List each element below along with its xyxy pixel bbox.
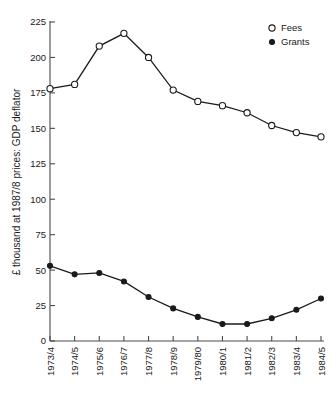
y-tick-label: 225 — [30, 16, 46, 27]
data-point-fees — [47, 86, 53, 92]
data-point-fees — [96, 43, 102, 49]
y-tick-label: 75 — [35, 229, 46, 240]
x-axis: 1973/41974/51975/61976/71977/81978/91979… — [45, 336, 327, 381]
legend-label-grants: Grants — [281, 36, 310, 47]
legend-marker-grants — [270, 40, 275, 45]
x-tick-label: 1980/1 — [217, 347, 228, 376]
data-point-grants — [72, 272, 77, 277]
data-point-grants — [195, 314, 200, 319]
y-tick-label: 175 — [30, 87, 46, 98]
y-tick-label: 25 — [35, 300, 46, 311]
x-tick-label: 1975/6 — [94, 347, 105, 376]
data-point-grants — [269, 316, 274, 321]
x-tick-label: 1982/3 — [266, 347, 277, 376]
y-tick-label: 200 — [30, 52, 46, 63]
data-point-grants — [97, 270, 102, 275]
x-tick-label: 1984/5 — [316, 347, 327, 376]
legend-marker-fees — [269, 25, 275, 31]
data-point-fees — [219, 103, 225, 109]
y-tick-label: 125 — [30, 158, 46, 169]
x-tick-label: 1973/4 — [45, 347, 56, 376]
data-point-grants — [245, 321, 250, 326]
x-tick-label: 1978/9 — [168, 347, 179, 376]
data-point-grants — [171, 306, 176, 311]
data-point-fees — [195, 98, 201, 104]
line-chart: 0255075100125150175200225 1973/41974/519… — [0, 0, 336, 395]
data-point-grants — [294, 307, 299, 312]
y-axis: 0255075100125150175200225 — [30, 16, 55, 346]
x-tick-label: 1976/7 — [118, 347, 129, 376]
data-point-fees — [244, 110, 250, 116]
data-point-fees — [170, 87, 176, 93]
y-tick-label: 100 — [30, 194, 46, 205]
chart-legend: FeesGrants — [269, 22, 310, 47]
chart-container: 0255075100125150175200225 1973/41974/519… — [0, 0, 336, 395]
data-point-fees — [269, 122, 275, 128]
data-point-grants — [121, 279, 126, 284]
data-point-grants — [319, 296, 324, 301]
data-point-fees — [72, 81, 78, 87]
x-tick-label: 1977/8 — [143, 347, 154, 376]
series-line-fees — [50, 33, 321, 137]
data-point-fees — [145, 54, 151, 60]
y-axis-title: £ thousand at 1987/8 prices: GDP deflato… — [11, 88, 22, 275]
y-tick-label: 0 — [41, 335, 46, 346]
data-point-fees — [293, 129, 299, 135]
y-tick-label: 150 — [30, 123, 46, 134]
y-tick-label: 50 — [35, 265, 46, 276]
data-point-fees — [121, 30, 127, 36]
data-point-grants — [220, 321, 225, 326]
x-tick-label: 1974/5 — [69, 347, 80, 376]
y-axis-ticks: 0255075100125150175200225 — [30, 16, 55, 346]
x-tick-label: 1979/80 — [192, 347, 203, 381]
legend-label-fees: Fees — [281, 22, 302, 33]
x-tick-label: 1981/2 — [242, 347, 253, 376]
x-axis-ticks: 1973/41974/51975/61976/71977/81978/91979… — [45, 336, 327, 381]
data-point-grants — [48, 263, 53, 268]
data-point-fees — [318, 134, 324, 140]
x-tick-label: 1983/4 — [291, 347, 302, 376]
data-series-layer — [47, 30, 324, 326]
series-line-grants — [50, 266, 321, 324]
data-point-grants — [146, 295, 151, 300]
